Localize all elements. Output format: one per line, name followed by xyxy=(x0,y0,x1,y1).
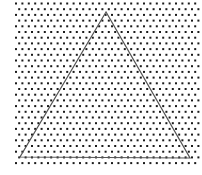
grid-dot xyxy=(175,94,177,96)
grid-dot xyxy=(114,20,116,22)
grid-dot xyxy=(34,25,36,27)
grid-dot xyxy=(47,14,49,16)
grid-dot xyxy=(34,37,36,39)
grid-dot xyxy=(137,94,139,96)
grid-dot xyxy=(172,8,174,10)
grid-dot xyxy=(31,145,33,147)
grid-dot xyxy=(165,8,167,10)
grid-dot xyxy=(149,25,151,27)
grid-dot xyxy=(197,156,199,158)
grid-dot xyxy=(162,139,164,141)
grid-dot xyxy=(79,3,81,5)
grid-dot xyxy=(140,99,142,101)
grid-dot xyxy=(137,48,139,50)
grid-dot xyxy=(194,128,196,130)
grid-dot xyxy=(172,134,174,136)
grid-dot xyxy=(178,8,180,10)
grid-dot xyxy=(85,25,87,27)
grid-dot xyxy=(82,122,84,124)
grid-dot xyxy=(156,14,158,16)
grid-dot xyxy=(85,151,87,153)
grid-dot xyxy=(79,94,81,96)
grid-dot xyxy=(117,128,119,130)
grid-dot xyxy=(185,88,187,90)
grid-dot xyxy=(188,94,190,96)
grid-dot xyxy=(194,82,196,84)
grid-dot xyxy=(181,71,183,73)
grid-dot xyxy=(133,77,135,79)
grid-dot xyxy=(95,20,97,22)
grid-dot xyxy=(121,8,123,10)
grid-dot xyxy=(143,3,145,5)
grid-dot xyxy=(66,162,68,164)
grid-dot xyxy=(178,111,180,113)
grid-dot xyxy=(57,8,59,10)
grid-dot xyxy=(66,128,68,130)
grid-dot xyxy=(95,31,97,33)
grid-dot xyxy=(73,151,75,153)
grid-dot xyxy=(194,14,196,16)
grid-dot xyxy=(172,99,174,101)
grid-dot xyxy=(165,111,167,113)
grid-dot xyxy=(69,134,71,136)
grid-dot xyxy=(117,71,119,73)
grid-dot xyxy=(105,82,107,84)
grid-dot xyxy=(37,65,39,67)
grid-dot xyxy=(44,31,46,33)
grid-dot xyxy=(73,14,75,16)
grid-dot xyxy=(169,37,171,39)
grid-dot xyxy=(130,94,132,96)
grid-dot xyxy=(137,14,139,16)
grid-dot xyxy=(18,99,20,101)
grid-dot xyxy=(41,14,43,16)
grid-dot xyxy=(149,128,151,130)
grid-dot xyxy=(76,77,78,79)
grid-dot xyxy=(178,20,180,22)
grid-dot xyxy=(28,162,30,164)
grid-dot xyxy=(124,37,126,39)
grid-dot xyxy=(146,65,148,67)
grid-dot xyxy=(191,122,193,124)
grid-dot xyxy=(41,94,43,96)
grid-dot xyxy=(117,25,119,27)
grid-dot xyxy=(197,20,199,22)
grid-dot xyxy=(21,25,23,27)
grid-dot xyxy=(15,162,17,164)
grid-dot xyxy=(137,71,139,73)
grid-dot xyxy=(194,3,196,5)
grid-dot xyxy=(79,25,81,27)
grid-dot xyxy=(130,60,132,62)
grid-dot xyxy=(41,139,43,141)
grid-dot xyxy=(178,65,180,67)
grid-dot xyxy=(37,111,39,113)
grid-dot xyxy=(121,122,123,124)
grid-dot xyxy=(146,31,148,33)
grid-dot xyxy=(21,14,23,16)
grid-dot xyxy=(92,48,94,50)
grid-dot xyxy=(76,145,78,147)
grid-dot xyxy=(69,54,71,56)
grid-dot xyxy=(28,14,30,16)
grid-dot xyxy=(169,128,171,130)
grid-dot xyxy=(117,162,119,164)
grid-dot xyxy=(31,20,33,22)
grid-dot xyxy=(108,77,110,79)
grid-dot xyxy=(25,122,27,124)
grid-dot xyxy=(53,37,55,39)
grid-dot xyxy=(18,54,20,56)
grid-dot xyxy=(101,122,103,124)
grid-dot xyxy=(50,134,52,136)
grid-dot xyxy=(159,54,161,56)
grid-dot xyxy=(181,117,183,119)
grid-dot xyxy=(15,94,17,96)
grid-dot xyxy=(172,31,174,33)
grid-dot xyxy=(130,162,132,164)
grid-dot xyxy=(53,60,55,62)
grid-dot xyxy=(156,139,158,141)
grid-dot xyxy=(82,134,84,136)
grid-dot xyxy=(111,71,113,73)
grid-dot xyxy=(175,117,177,119)
grid-dot xyxy=(143,60,145,62)
grid-dot xyxy=(60,117,62,119)
grid-dot xyxy=(159,88,161,90)
